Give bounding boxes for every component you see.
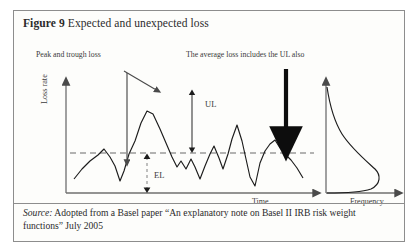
ul-arrow-head-down [189, 148, 195, 154]
el-label: EL [154, 170, 164, 180]
loss-distribution-curve [327, 87, 379, 193]
peak-pointer-arrow [124, 71, 158, 91]
left-panel-loss-rate [66, 69, 317, 193]
ul-arrow-head-up [189, 90, 195, 96]
source-text: Adopted from a Basel paper “An explanato… [23, 207, 356, 231]
loss-rate-series [74, 111, 303, 186]
el-arrow-head-up [144, 154, 151, 159]
figure-container: Figure 9 Expected and unexpected loss Pe… [13, 10, 405, 242]
source-divider [14, 203, 404, 204]
source-label: Source: [23, 207, 52, 218]
ul-label: UL [205, 99, 216, 109]
right-panel-distribution [326, 81, 399, 193]
axis-label-frequency: Frequency [350, 197, 384, 206]
source-note: Source: Adopted from a Basel paper “An e… [23, 207, 397, 232]
el-arrow-head-down [144, 188, 151, 194]
axis-label-loss-rate: Loss rate [40, 74, 49, 104]
axis-label-time: Time [252, 197, 269, 206]
